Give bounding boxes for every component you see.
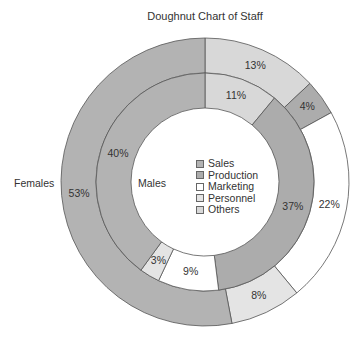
males-ring-label: Males [138,177,166,189]
production-swatch-icon [196,171,204,179]
legend-label: Sales [208,158,234,170]
females-ring-label: Females [14,177,54,189]
legend-item-marketing: Marketing [196,181,258,193]
legend: Sales Production Marketing Personnel Oth… [196,158,258,216]
percent-label: 4% [300,100,315,112]
legend-item-sales: Sales [196,158,258,170]
marketing-swatch-icon [196,183,204,191]
percent-label: 8% [251,289,266,301]
personnel-swatch-icon [196,194,204,202]
percent-label: 37% [282,200,303,212]
sales-swatch-icon [196,160,204,168]
legend-item-others: Others [196,204,258,216]
doughnut-chart: 13%4%22%8%53%11%37%9%3%40%FemalesMales [0,0,359,343]
percent-label: 22% [319,198,340,210]
percent-label: 13% [245,59,266,71]
others-swatch-icon [196,206,204,214]
percent-label: 53% [69,187,90,199]
percent-label: 11% [226,89,246,101]
legend-label: Others [208,204,240,216]
percent-label: 40% [107,147,128,159]
percent-label: 9% [183,265,198,277]
percent-label: 3% [151,254,166,266]
legend-label: Marketing [208,181,254,193]
